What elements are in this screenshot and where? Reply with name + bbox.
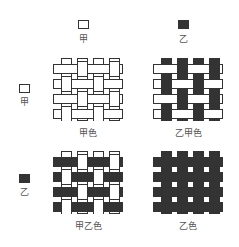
weave-cell-jia (53, 58, 123, 121)
row-swatch-yi (19, 174, 30, 183)
column-label-yi: 乙 (178, 34, 189, 44)
column-swatch-jia (78, 20, 89, 29)
row-label-jia: 甲 (19, 97, 30, 107)
weave-cell-yi (153, 151, 223, 214)
row-swatch-jia (19, 84, 30, 93)
column-swatch-yi (178, 20, 189, 29)
row-label-yi: 乙 (19, 187, 30, 197)
column-label-jia: 甲 (78, 34, 89, 44)
weave-cell-jia-yi (53, 151, 123, 214)
cell-label-yi: 乙色 (153, 221, 223, 231)
weave-cell-yi-jia (153, 58, 223, 121)
cell-label-jia: 甲色 (53, 128, 123, 138)
cell-label-jia-yi: 甲乙色 (53, 221, 123, 231)
cell-label-yi-jia: 乙甲色 (153, 128, 223, 138)
